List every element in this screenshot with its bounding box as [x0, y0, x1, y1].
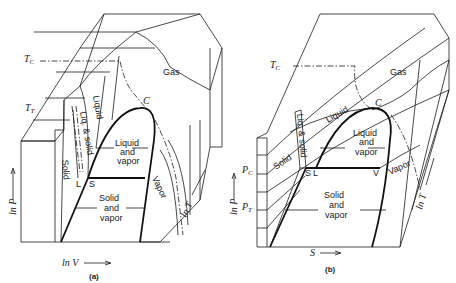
axis-ln-p: ln P — [7, 199, 18, 215]
point-s: S — [89, 179, 95, 189]
caption-b: (b) — [325, 265, 336, 274]
point-s: S — [305, 168, 311, 178]
point-c: C — [375, 97, 382, 108]
point-v: V — [373, 168, 379, 178]
point-c: C — [143, 95, 150, 106]
region-solid-vapor-3: vapor — [100, 213, 123, 223]
region-solid: Solid — [60, 159, 72, 180]
label-tc: TC — [24, 53, 35, 66]
region-liquid: Liquid — [91, 95, 105, 120]
axis-ln-p: ln P — [228, 199, 239, 215]
point-l: L — [313, 168, 318, 178]
region-gas: Gas — [163, 67, 180, 77]
arrow-diag-icon — [426, 158, 434, 185]
region-solid-vapor-3: vapor — [325, 210, 348, 220]
label-tt: TT — [25, 102, 36, 115]
arrow-right-icon — [320, 251, 341, 255]
point-l: L — [76, 179, 81, 189]
label-tc: TC — [270, 59, 281, 72]
panel-a-pvt-surface: Gas Liquid Liq. & solid Solid Liquid and… — [7, 14, 222, 281]
axis-ln-v: ln V — [62, 257, 80, 268]
region-liquid: Liquid — [324, 104, 350, 125]
arrow-up-icon — [232, 173, 236, 200]
region-liq-solid: Liq. & solid — [295, 113, 309, 158]
region-liquid-vapor-3: vapor — [355, 147, 378, 157]
region-liquid-vapor-3: vapor — [117, 156, 140, 166]
phase-diagrams: Gas Liquid Liq. & solid Solid Liquid and… — [0, 0, 456, 283]
panel-b-pst-surface: Gas Liquid Liq. & solid Solid Liquid and… — [228, 14, 449, 274]
region-solid-vapor-2: and — [104, 203, 119, 213]
arrow-right-icon — [84, 261, 111, 265]
region-solid-vapor-2: and — [329, 200, 344, 210]
arrow-up-icon — [11, 168, 15, 200]
region-solid-vapor-1: Solid — [324, 190, 344, 200]
region-vapor: Vapor — [150, 175, 169, 200]
region-liquid-vapor-2: and — [359, 137, 374, 147]
label-pt: PT — [241, 201, 253, 214]
axis-s: S — [310, 247, 315, 258]
region-solid-vapor-1: Solid — [99, 193, 119, 203]
axis-ln-t: ln T — [178, 199, 195, 219]
label-pc: PC — [241, 164, 253, 177]
region-gas: Gas — [390, 67, 407, 77]
caption-a: (a) — [89, 272, 99, 281]
